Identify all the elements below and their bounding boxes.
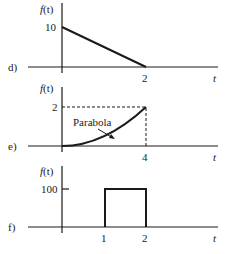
x-tick-label-1: 1 [101,232,107,244]
x-tick-label: 2 [142,72,148,84]
pulse-line [105,189,146,227]
y-tick-label: 100 [41,183,58,195]
chart-figure: d) f(t) 10 2 t e) f(t) 2 4 t Parabola f)… [0,0,228,254]
y-tick-label: 2 [52,101,58,113]
panel-label: f) [8,221,16,234]
x-axis-label: t [213,151,217,163]
ramp-line [62,27,146,67]
panel-d: d) f(t) 10 2 t [8,3,218,84]
x-tick-label-2: 2 [142,232,148,244]
panel-label: d) [8,61,18,74]
arrow-head-icon [109,134,115,139]
x-axis-label: t [213,72,217,84]
y-axis-label: f(t) [40,82,54,95]
y-axis-label: f(t) [40,165,54,178]
y-axis-label: f(t) [40,3,54,16]
x-axis-label: t [213,232,217,244]
panel-label: e) [8,140,17,153]
x-tick-label: 4 [142,151,148,163]
parabola-annotation: Parabola [73,116,112,128]
y-tick-label: 10 [45,21,57,33]
panel-f: f) f(t) 100 1 2 t [8,165,218,244]
panel-e: e) f(t) 2 4 t Parabola [8,82,218,163]
